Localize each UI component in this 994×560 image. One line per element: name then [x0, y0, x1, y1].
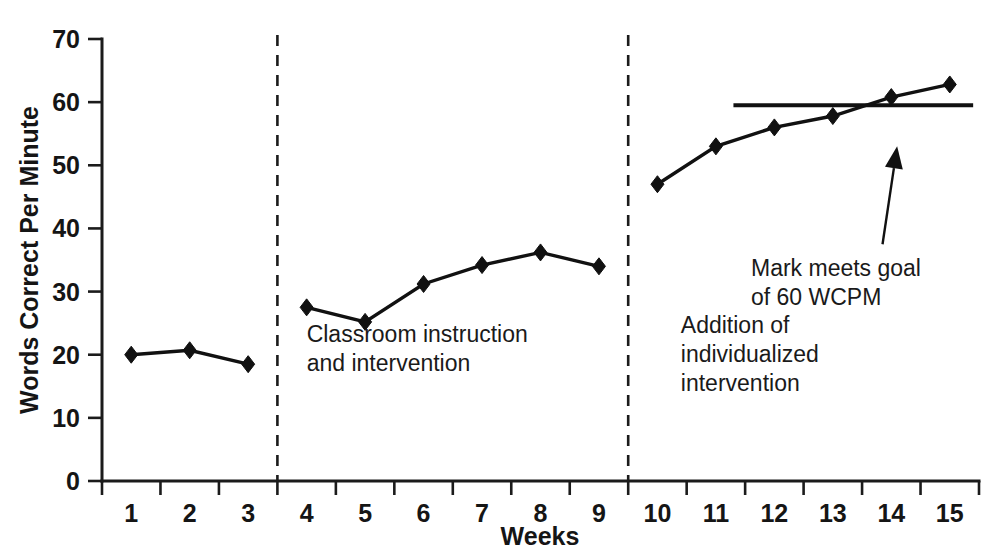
- individualized-intervention-label-line-3: intervention: [681, 370, 800, 396]
- individualized-intervention-label-line-2: individualized: [681, 341, 819, 367]
- series-segment-classroom-instruction-and-intervention: [307, 252, 599, 321]
- data-point-week-11: [709, 138, 722, 155]
- series-segment-addition-of-individualized-intervention: [657, 84, 949, 184]
- annotation-arrow-group: [883, 146, 903, 244]
- x-tick-label-13: 13: [819, 499, 847, 527]
- x-tick-label-5: 5: [358, 499, 372, 527]
- y-tick-label-60: 60: [52, 88, 80, 116]
- y-tick-label-20: 20: [52, 341, 80, 369]
- x-tick-label-14: 14: [877, 499, 905, 527]
- data-series-group: [125, 76, 957, 373]
- phase-label-group: Classroom instructionand interventionAdd…: [307, 312, 819, 396]
- x-tick-label-2: 2: [183, 499, 197, 527]
- x-tick-label-9: 9: [592, 499, 606, 527]
- x-tick-label-15: 15: [936, 499, 964, 527]
- y-axis-tick-labels: 010203040506070: [52, 25, 80, 495]
- classroom-instruction-label-line-2: and intervention: [307, 350, 471, 376]
- x-axis-ticks: [102, 481, 979, 495]
- x-tick-label-3: 3: [241, 499, 255, 527]
- x-axis-title: Weeks: [501, 522, 580, 550]
- x-tick-label-11: 11: [703, 499, 730, 527]
- data-point-week-9: [592, 258, 605, 275]
- data-point-week-6: [417, 275, 430, 292]
- data-point-week-7: [476, 257, 489, 274]
- y-tick-label-70: 70: [52, 25, 80, 53]
- data-point-week-1: [125, 346, 138, 363]
- data-point-week-13: [826, 108, 839, 125]
- x-tick-label-6: 6: [417, 499, 431, 527]
- data-point-week-4: [300, 299, 313, 316]
- chart-canvas: 010203040506070 123456789101112131415 We…: [0, 0, 994, 560]
- y-tick-label-10: 10: [52, 404, 80, 432]
- x-tick-label-10: 10: [644, 499, 672, 527]
- annotation-label-group: Mark meets goalof 60 WCPM: [751, 255, 921, 310]
- y-tick-label-40: 40: [52, 214, 80, 242]
- y-axis-ticks: [88, 39, 102, 481]
- x-tick-label-4: 4: [300, 499, 314, 527]
- data-point-week-2: [183, 342, 196, 359]
- data-point-week-12: [768, 119, 781, 136]
- x-tick-label-12: 12: [760, 499, 788, 527]
- y-tick-label-0: 0: [66, 467, 80, 495]
- chart-container: 010203040506070 123456789101112131415 We…: [0, 0, 994, 560]
- goal-met-annotation-line-1: Mark meets goal: [751, 255, 921, 281]
- data-point-week-8: [534, 244, 547, 261]
- classroom-instruction-label-line-1: Classroom instruction: [307, 321, 528, 347]
- x-tick-label-1: 1: [124, 499, 138, 527]
- data-point-week-10: [651, 176, 664, 193]
- y-tick-label-30: 30: [52, 278, 80, 306]
- data-point-week-15: [943, 76, 956, 93]
- x-tick-label-7: 7: [475, 499, 489, 527]
- individualized-intervention-label-line-1: Addition of: [681, 312, 790, 338]
- phase-divider-group: [277, 35, 628, 481]
- y-tick-label-50: 50: [52, 151, 80, 179]
- goal-met-annotation-shaft: [883, 168, 894, 244]
- goal-met-annotation-head: [885, 146, 903, 169]
- data-point-week-14: [885, 89, 898, 106]
- y-axis-title: Words Correct Per Minute: [15, 106, 43, 414]
- goal-met-annotation-line-2: of 60 WCPM: [751, 284, 881, 310]
- data-point-week-3: [242, 356, 255, 373]
